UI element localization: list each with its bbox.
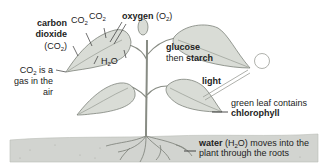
label-water-roots-2: plant through the roots bbox=[199, 148, 289, 158]
label-green-leaf: green leaf contains bbox=[231, 98, 307, 108]
label-chlorophyll: chlorophyll bbox=[231, 108, 280, 118]
label-light: light bbox=[202, 76, 221, 86]
label-co2-gas-2: gas in the bbox=[5, 76, 53, 86]
label-co2-left: CO2 bbox=[71, 15, 88, 25]
label-co2-right: CO2 bbox=[89, 11, 106, 21]
label-carbon-dioxide-2: dioxide bbox=[25, 29, 67, 39]
label-water-leaf: H2O bbox=[101, 56, 118, 66]
leaf-bud bbox=[138, 19, 148, 35]
label-starch: then starch bbox=[166, 53, 213, 63]
label-oxygen: oxygen (O2) bbox=[122, 11, 172, 21]
sun-icon bbox=[255, 54, 270, 69]
label-co2-gas-3: air bbox=[5, 87, 53, 97]
label-carbon-dioxide-1: carbon bbox=[25, 18, 67, 28]
label-carbon-dioxide-formula: (CO2) bbox=[25, 41, 67, 51]
label-glucose: glucose bbox=[166, 42, 200, 52]
label-co2-gas-1: CO2 is a bbox=[5, 65, 53, 75]
label-water-roots-1: water (H2O) moves into the bbox=[199, 138, 309, 148]
photosynthesis-diagram: carbon dioxide (CO2) CO2 CO2 oxygen (O2)… bbox=[0, 0, 323, 168]
